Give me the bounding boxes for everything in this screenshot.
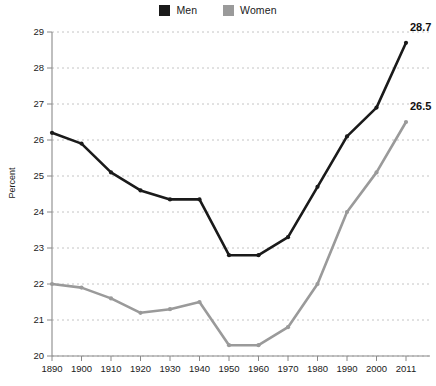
data-label-women-2011: 26.5: [410, 100, 431, 112]
y-tick-label-29: 29: [18, 27, 44, 37]
y-tick-label-28: 28: [18, 63, 44, 73]
y-axis-title: Percent: [7, 153, 17, 213]
chart-container: Men Women Percent 20212223242526272829 1…: [0, 0, 436, 386]
axis-lines: [52, 32, 430, 356]
x-tick-label-2011: 2011: [386, 364, 426, 374]
y-tick-label-27: 27: [18, 99, 44, 109]
series-markers-women: [50, 120, 408, 347]
y-tick-marks: [47, 32, 52, 356]
y-tick-label-24: 24: [18, 207, 44, 217]
x-tick-marks: [52, 356, 406, 361]
series-markers-men: [50, 41, 408, 258]
data-label-men-2011: 28.7: [410, 21, 431, 33]
y-tick-label-21: 21: [18, 315, 44, 325]
gridlines: [52, 32, 430, 356]
y-tick-label-26: 26: [18, 135, 44, 145]
y-tick-label-25: 25: [18, 171, 44, 181]
series-line-women: [52, 122, 406, 345]
y-tick-label-20: 20: [18, 351, 44, 361]
chart-canvas: [0, 0, 436, 386]
plot-area: Percent 20212223242526272829 18901900191…: [0, 0, 436, 386]
y-tick-label-23: 23: [18, 243, 44, 253]
y-tick-label-22: 22: [18, 279, 44, 289]
series-line-men: [52, 43, 406, 255]
